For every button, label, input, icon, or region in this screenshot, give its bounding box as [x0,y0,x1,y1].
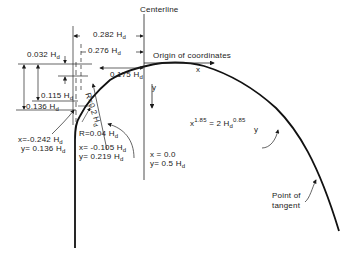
point3-x-label: x = 0.0 [150,151,176,159]
x-axis-label: x [196,66,200,74]
point3-y-label: y= 0.5 Hd [150,160,185,168]
point-of-tangent-label-1: Point of [272,192,301,200]
radius-004-label: R=0.04 Hd [79,130,118,138]
point1-y-label: y= 0.136 Hd [21,145,65,153]
y-axis-label: y [152,84,156,92]
dim-0175-label: 0.175 Hd [110,71,143,79]
spillway-profile-diagram [0,0,357,256]
point-of-tangent-label-2: tangent [272,202,300,210]
centerline-label: Centerline [140,6,178,14]
dim-0115-label: 0.115 Hd [41,92,73,100]
dim-0276-label: 0.276 Hd [88,47,121,55]
point1-x-label: x=-0.242 Hd [18,136,63,144]
point2-x-label: x= -0.105 Hd [79,144,126,152]
leader-tangent [305,180,316,202]
origin-label: Origin of coordinates [153,52,231,60]
point2-y-label: y= 0.219 Hd [79,153,123,161]
leader-equation [262,130,278,148]
profile-equation: x1.85 = 2 Hd0.85 y [190,120,252,128]
leader-pt1 [52,110,74,134]
dim-0136-label: 0.136 Hd [26,103,59,111]
dim-0032-label: 0.032 Hd [27,51,60,59]
dim-0282-label: 0.282 Hd [93,31,126,39]
